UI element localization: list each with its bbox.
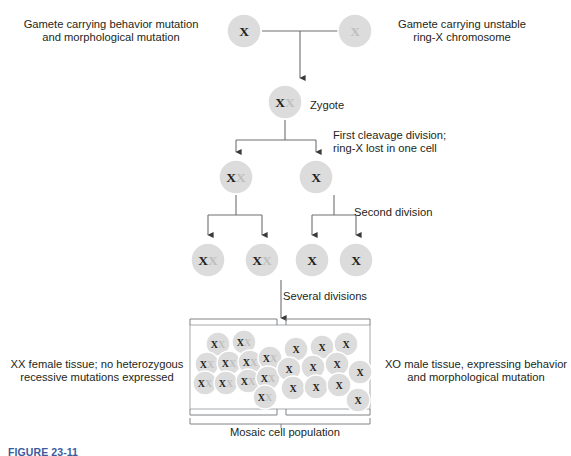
cell-genotype-label: XX (219, 378, 234, 389)
cell-genotype-label: X (356, 367, 364, 378)
cell-genotype-label: XX (237, 337, 252, 348)
cell-zygote: XX (268, 85, 302, 119)
figure-root: XXXXXXXXXXXXX XXXXXXXXXXXXXXXXXXXXXXXXXX… (0, 0, 571, 456)
cell-genotype-label: XX (222, 358, 237, 369)
mosaic-cell-xx-7: XX (214, 371, 238, 395)
label-second-division: Second division (354, 206, 494, 219)
cell-four-cell-xx-1: XX (191, 243, 225, 277)
cell-genotype-label: XX (200, 359, 215, 370)
cell-genotype-label: XX (198, 378, 213, 389)
cell-genotype-label: X (354, 395, 362, 406)
mosaic-cell-xo-8: X (304, 375, 328, 399)
cell-genotype-label: X (292, 344, 300, 355)
cell-genotype-label: X (333, 359, 341, 370)
cell-genotype-label: XX (275, 95, 295, 110)
cell-genotype-label: XX (263, 353, 278, 364)
cell-genotype-label: XX (226, 170, 246, 185)
label-first-cleavage-division: First cleavage division; ring-X lost in … (333, 129, 543, 156)
mosaic-cell-xx-10: XX (253, 385, 277, 409)
label-xo-male-tissue: XO male tissue, expressing behavior and … (384, 358, 568, 385)
cell-genotype-label: X (335, 380, 343, 391)
cell-genotype-label: XX (211, 339, 226, 350)
mosaic-cells-layer: XXXXXXXXXXXXXXXXXXXXXXXXXXXXXXXXX (193, 330, 372, 412)
cell-genotype-label: X (285, 364, 293, 375)
mosaic-cell-xo-10: X (346, 388, 370, 412)
label-zygote: Zygote (310, 99, 390, 112)
cell-genotype-label: XX (243, 357, 258, 368)
cell-genotype-label: X (289, 383, 297, 394)
pedigree-diagram: XXXXXXXXXXXXX XXXXXXXXXXXXXXXXXXXXXXXXXX… (0, 0, 571, 456)
cell-four-cell-xx-2: XX (245, 243, 279, 277)
cell-genotype-label: XX (258, 392, 273, 403)
cell-genotype-label: X (312, 382, 320, 393)
cell-genotype-label: X (342, 339, 350, 350)
cell-genotype-label: X (311, 170, 321, 185)
cell-four-cell-xo-1: X (295, 243, 329, 277)
cell-genotype-label: X (239, 24, 249, 39)
cell-genotype-label: X (309, 362, 317, 373)
label-several-divisions: Several divisions (283, 290, 413, 303)
cell-genotype-label: XX (252, 253, 272, 268)
label-gamete-right: Gamete carrying unstable ring-X chromoso… (358, 18, 566, 45)
cell-genotype-label: XX (241, 376, 256, 387)
cell-genotype-label: XX (261, 373, 276, 384)
label-gamete-left: Gamete carrying behavior mutation and mo… (6, 18, 216, 45)
cell-four-cell-xo-2: X (339, 243, 373, 277)
cell-two-cell-xo: X (299, 160, 333, 194)
cell-two-cell-xx: XX (219, 160, 253, 194)
mosaic-cell-xo-6: X (348, 360, 372, 384)
figure-caption: FIGURE 23-11 (8, 446, 78, 456)
cell-genotype-label: X (307, 253, 317, 268)
label-xx-female-tissue: XX female tissue; no heterozygous recess… (4, 358, 190, 385)
mosaic-cell-xo-7: X (281, 376, 305, 400)
label-mosaic-cell-population: Mosaic cell population (205, 426, 365, 439)
cell-genotype-label: X (318, 342, 326, 353)
cell-gamete-maternal: X (227, 14, 261, 48)
cell-genotype-label: X (351, 253, 361, 268)
mosaic-cell-xo-5: X (325, 352, 349, 376)
cell-genotype-label: XX (198, 253, 218, 268)
